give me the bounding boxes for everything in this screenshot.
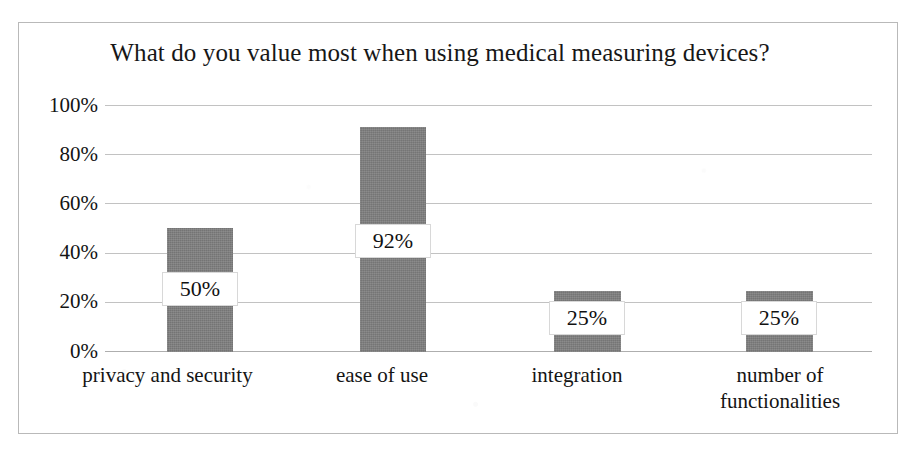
y-axis-tick-label-80: 80% <box>12 144 98 165</box>
gridline-100 <box>105 105 872 106</box>
bar-value-label-privacy-and-security: 50% <box>162 272 238 306</box>
bar-value-label-integration: 25% <box>549 301 625 335</box>
chart-title: What do you value most when using medica… <box>40 38 840 68</box>
x-axis-category-label-line2: functionalities <box>720 389 840 413</box>
x-axis-category-label-number-of-functionalities: number of functionalities <box>690 362 870 414</box>
chart-figure: What do you value most when using medica… <box>0 0 916 460</box>
gridline-60 <box>105 203 872 204</box>
y-axis-tick-label-40: 40% <box>12 242 98 263</box>
x-axis-category-label-ease-of-use: ease of use <box>282 362 482 388</box>
y-axis-tick-label-100: 100% <box>12 95 98 116</box>
gridline-80 <box>105 154 872 155</box>
y-axis-tick-label-20: 20% <box>12 291 98 312</box>
plot-area: 50% 92% 25% 25% <box>105 105 872 352</box>
bar-value-label-ease-of-use: 92% <box>355 224 431 258</box>
x-axis-category-label-integration: integration <box>487 362 667 388</box>
y-axis-tick-label-0: 0% <box>12 341 98 362</box>
y-axis-tick-label-60: 60% <box>12 193 98 214</box>
bar-value-label-number-of-functionalities: 25% <box>741 301 817 335</box>
x-axis-category-label-privacy-and-security: privacy and security <box>60 362 275 388</box>
x-axis-category-label-line1: number of <box>737 363 824 387</box>
